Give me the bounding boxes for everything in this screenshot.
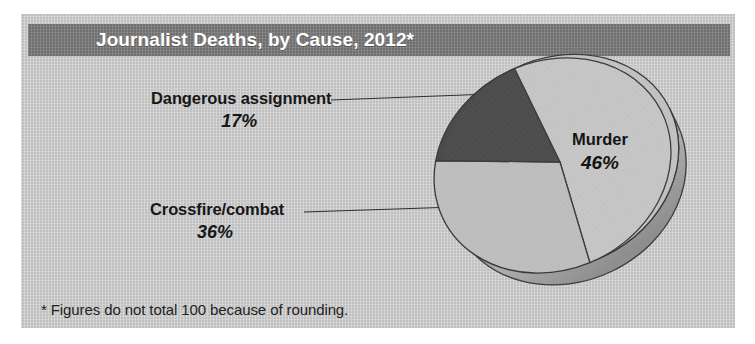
callout-crossfire-combat-category: Crossfire/combat <box>150 201 284 218</box>
callout-dangerous-assignment-category: Dangerous assignment <box>151 90 331 107</box>
chart-footnote: * Figures do not total 100 because of ro… <box>41 301 348 318</box>
callout-crossfire-combat-value: 36% <box>146 221 284 244</box>
pie-label-murder: Murder 46% <box>572 131 628 175</box>
callout-dangerous-assignment-value: 17% <box>147 110 331 133</box>
chart-title: Journalist Deaths, by Cause, 2012* <box>96 29 414 51</box>
chart-figure: Journalist Deaths, by Cause, 2012* <box>0 0 755 344</box>
pie-label-murder-category: Murder <box>572 131 628 148</box>
pie-chart <box>420 28 720 298</box>
callout-dangerous-assignment: Dangerous assignment 17% <box>151 90 331 133</box>
pie-label-murder-value: 46% <box>572 151 628 175</box>
callout-crossfire-combat: Crossfire/combat 36% <box>150 201 284 244</box>
